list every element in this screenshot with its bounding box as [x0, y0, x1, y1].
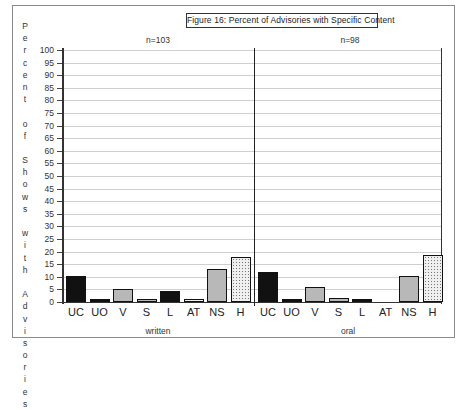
x-category-label: NS [397, 306, 421, 318]
gridline [62, 113, 442, 114]
y-tick-label: 35 [32, 209, 54, 219]
gridline [62, 100, 442, 101]
gridline [62, 277, 442, 278]
x-category-label: L [350, 306, 374, 318]
gridline [62, 126, 442, 127]
y-axis-label-letter: w [20, 191, 30, 203]
gridline [62, 88, 442, 89]
x-category-label: S [135, 306, 159, 318]
y-axis-label-letter: i [20, 325, 30, 337]
y-axis-label-letter: A [20, 288, 30, 300]
x-category-label: S [327, 306, 351, 318]
bar-oral-uc [258, 272, 278, 302]
y-tick-label: 25 [32, 234, 54, 244]
y-axis-label-letter: i [20, 239, 30, 251]
x-category-label: L [158, 306, 182, 318]
gridline [62, 63, 442, 64]
y-axis-label: Percent of Shows with Advisories [20, 20, 30, 410]
bar-written-s [137, 299, 157, 302]
y-axis-label-letter: s [20, 398, 30, 410]
y-tick-label: 5 [32, 284, 54, 294]
plot-area: 0510152025303540455055606570758085909510… [62, 50, 442, 302]
y-axis-label-letter [20, 276, 30, 288]
y-tick [57, 113, 62, 114]
y-tick [57, 63, 62, 64]
x-category-label: H [421, 306, 445, 318]
y-tick-label: 20 [32, 247, 54, 257]
x-category-label: AT [182, 306, 206, 318]
y-axis-label-letter: o [20, 178, 30, 190]
y-tick-label: 90 [32, 70, 54, 80]
bar-written-at [184, 299, 204, 302]
y-tick [57, 252, 62, 253]
gridline [62, 189, 442, 190]
y-tick-label: 95 [32, 58, 54, 68]
bar-written-ns [207, 269, 227, 302]
y-tick [57, 88, 62, 89]
panel-divider [254, 48, 255, 306]
y-axis-label-letter [20, 215, 30, 227]
x-category-label: UC [64, 306, 88, 318]
y-tick-label: 15 [32, 259, 54, 269]
gridline [62, 252, 442, 253]
bar-written-h [231, 257, 251, 302]
bar-oral-h [423, 255, 443, 302]
y-axis-label-letter: e [20, 386, 30, 398]
y-axis-label-letter: S [20, 154, 30, 166]
y-tick-label: 80 [32, 95, 54, 105]
x-category-label: UC [256, 306, 280, 318]
y-tick-label: 30 [32, 221, 54, 231]
y-axis-label-letter: e [20, 69, 30, 81]
chart-title: Figure 16: Percent of Advisories with Sp… [186, 13, 378, 28]
y-tick [57, 289, 62, 290]
y-tick [57, 277, 62, 278]
x-category-label: NS [205, 306, 229, 318]
y-axis-label-letter: o [20, 118, 30, 130]
n-label-written: n=103 [128, 35, 188, 45]
y-tick-label: 55 [32, 158, 54, 168]
bar-written-v [113, 289, 133, 302]
y-tick [57, 100, 62, 101]
y-axis-label-letter [20, 142, 30, 154]
y-axis-label-letter: t [20, 93, 30, 105]
y-tick [57, 264, 62, 265]
y-axis-label-letter: r [20, 361, 30, 373]
y-axis-label-letter [20, 105, 30, 117]
y-tick [57, 214, 62, 215]
y-axis-label-letter: s [20, 203, 30, 215]
y-tick [57, 163, 62, 164]
y-axis-label-letter: o [20, 349, 30, 361]
y-axis-label-letter: f [20, 130, 30, 142]
gridline [62, 163, 442, 164]
gridline [62, 50, 442, 51]
x-category-label: AT [374, 306, 398, 318]
y-tick [57, 75, 62, 76]
gridline [62, 138, 442, 139]
x-category-label: V [303, 306, 327, 318]
bar-oral-ns [399, 276, 419, 302]
y-axis-label-letter: h [20, 264, 30, 276]
y-tick [57, 176, 62, 177]
y-tick-label: 85 [32, 83, 54, 93]
y-tick-label: 100 [32, 45, 54, 55]
group-label-oral: oral [318, 326, 378, 336]
gridline [62, 151, 442, 152]
bar-oral-uo [282, 299, 302, 302]
bar-oral-l [352, 299, 372, 302]
gridline [62, 75, 442, 76]
y-axis-label-letter: n [20, 81, 30, 93]
y-tick-label: 0 [32, 297, 54, 307]
y-axis-label-letter: h [20, 166, 30, 178]
y-axis-label-letter: P [20, 20, 30, 32]
group-label-written: written [128, 326, 188, 336]
y-tick-label: 60 [32, 146, 54, 156]
bar-written-uc [66, 276, 86, 302]
y-tick [57, 50, 62, 51]
y-axis-label-letter: e [20, 32, 30, 44]
y-tick-label: 10 [32, 272, 54, 282]
x-category-label: H [229, 306, 253, 318]
y-tick [57, 201, 62, 202]
y-axis-label-letter: s [20, 337, 30, 349]
gridline [62, 214, 442, 215]
y-axis-label-letter: c [20, 57, 30, 69]
